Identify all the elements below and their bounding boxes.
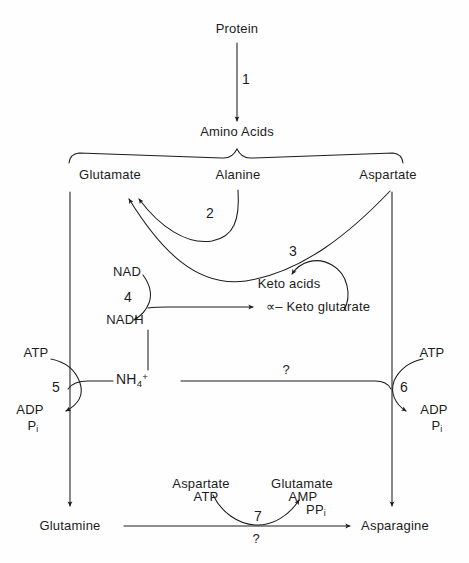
unknown-step-nh4-transfer: ? [282,362,289,377]
step-number-2: 2 [206,205,214,221]
node-adp-right: ADP [420,403,447,417]
alpha-symbol: ∝ [266,299,275,314]
node-asparagine: Asparagine [361,519,429,533]
node-glutamate: Glutamate [79,168,141,182]
unknown-step-glutamine-asparagine: ? [252,531,259,546]
ammonium-superscript: + [142,371,148,382]
pi-right-base: P [431,418,440,433]
ppi-base: PP [306,502,324,517]
pathway-diagram: Protein 1 Amino Acids Glutamate Alanine … [0,0,469,563]
node-nadh: NADH [106,313,144,327]
cosubstrate-atp: ATP [194,490,219,505]
node-alpha-keto-glutarate: ∝– Keto glutarate [266,300,370,314]
node-keto-acids: Keto acids [258,277,321,291]
link-ammonium-to-right-trunk [181,381,391,389]
node-atp-right: ATP [420,346,445,360]
ammonium-base: NH [116,371,137,387]
pi-left-subscript: i [36,424,38,434]
ppi-subscript: i [324,508,326,518]
coproduct-ppi: PPi [306,503,326,519]
link-ammonium-to-left-trunk [68,381,113,389]
node-protein: Protein [216,22,259,36]
node-alanine: Alanine [216,168,261,182]
node-glutamine: Glutamine [39,519,100,533]
curve-aspartate-to-glutamate [129,191,390,282]
node-pi-right: Pi [431,419,442,435]
node-pi-left: Pi [27,419,38,435]
step-number-7: 7 [254,508,262,524]
node-adp-left: ADP [16,403,43,417]
node-ammonium: NH4+ [116,372,148,389]
pathway-connectors [0,0,469,563]
pi-right-subscript: i [440,424,442,434]
alpha-keto-glutarate-text: – Keto glutarate [275,299,370,314]
node-atp-left: ATP [24,346,49,360]
node-amino-acids: Amino Acids [200,125,274,139]
arrow-glutamate-to-alpha-keto-glutarate [148,307,253,308]
amino-acid-brace [69,149,403,163]
step-number-6: 6 [400,379,408,395]
step-number-5: 5 [52,379,60,395]
step-number-4: 4 [124,289,132,305]
step-number-3: 3 [289,243,297,259]
step-number-1: 1 [242,71,250,87]
pi-left-base: P [27,418,36,433]
node-aspartate: Aspartate [359,168,416,182]
node-nad: NAD [113,265,141,279]
